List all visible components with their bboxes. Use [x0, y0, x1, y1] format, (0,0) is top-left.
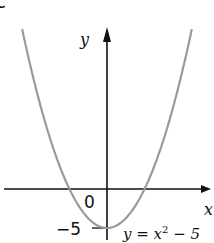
y-axis-label: y: [80, 30, 89, 49]
origin-label: 0: [84, 192, 95, 212]
y-intercept-label: −5: [56, 219, 81, 239]
part-label: c: [0, 0, 6, 13]
y-axis-arrow-icon: [103, 27, 111, 42]
x-axis-label: x: [204, 200, 213, 219]
x-axis-arrow-icon: [201, 185, 211, 193]
equation-label: y = x2 − 5: [123, 224, 200, 243]
